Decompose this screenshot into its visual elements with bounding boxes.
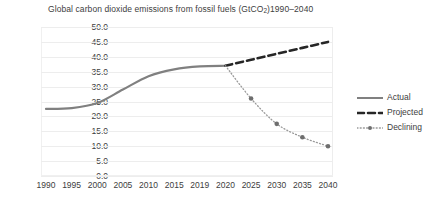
x-axis-tick-label: 2010 [139, 180, 158, 190]
x-axis-tick-label: 2020 [216, 180, 235, 190]
legend-label: Declining [387, 123, 422, 132]
legend-label: Projected [387, 108, 423, 117]
series-marker-declining [274, 122, 279, 127]
x-axis-tick-label: 2030 [267, 180, 286, 190]
series-marker-declining [300, 135, 305, 140]
chart-title-prefix: Global carbon dioxide emissions from fos… [48, 4, 263, 14]
legend-item-declining[interactable]: Declining [357, 120, 443, 135]
x-axis-tick-label: 2015 [165, 180, 184, 190]
chart-title-suffix: )1990–2040 [267, 4, 313, 14]
x-axis-tick-label: 1995 [62, 180, 81, 190]
series-line-projected [225, 42, 328, 66]
series-layer [41, 27, 333, 176]
series-line-actual [46, 66, 225, 109]
chart-container: Global carbon dioxide emissions from fos… [0, 0, 446, 209]
legend-label: Actual [387, 93, 411, 102]
legend-key-projected-icon [357, 108, 383, 118]
x-axis-tick-label: 2040 [319, 180, 338, 190]
legend-item-projected[interactable]: Projected [357, 105, 443, 120]
x-axis-tick-label: 1990 [37, 180, 56, 190]
x-axis-tick-label: 2000 [88, 180, 107, 190]
legend-key-declining-icon [357, 123, 383, 133]
series-marker-declining [326, 144, 331, 149]
x-axis-tick-label: 2035 [293, 180, 312, 190]
plot-area [41, 27, 333, 176]
chart-legend: ActualProjectedDeclining [357, 90, 443, 135]
series-line-declining [225, 66, 328, 146]
x-axis-tick-label: 2005 [113, 180, 132, 190]
x-axis-tick-label: 2019 [190, 180, 209, 190]
legend-key-actual-icon [357, 93, 383, 103]
x-axis-tick-label: 2025 [242, 180, 261, 190]
gridline [41, 176, 333, 177]
series-marker-declining [249, 96, 254, 101]
legend-item-actual[interactable]: Actual [357, 90, 443, 105]
chart-title: Global carbon dioxide emissions from fos… [48, 4, 313, 14]
